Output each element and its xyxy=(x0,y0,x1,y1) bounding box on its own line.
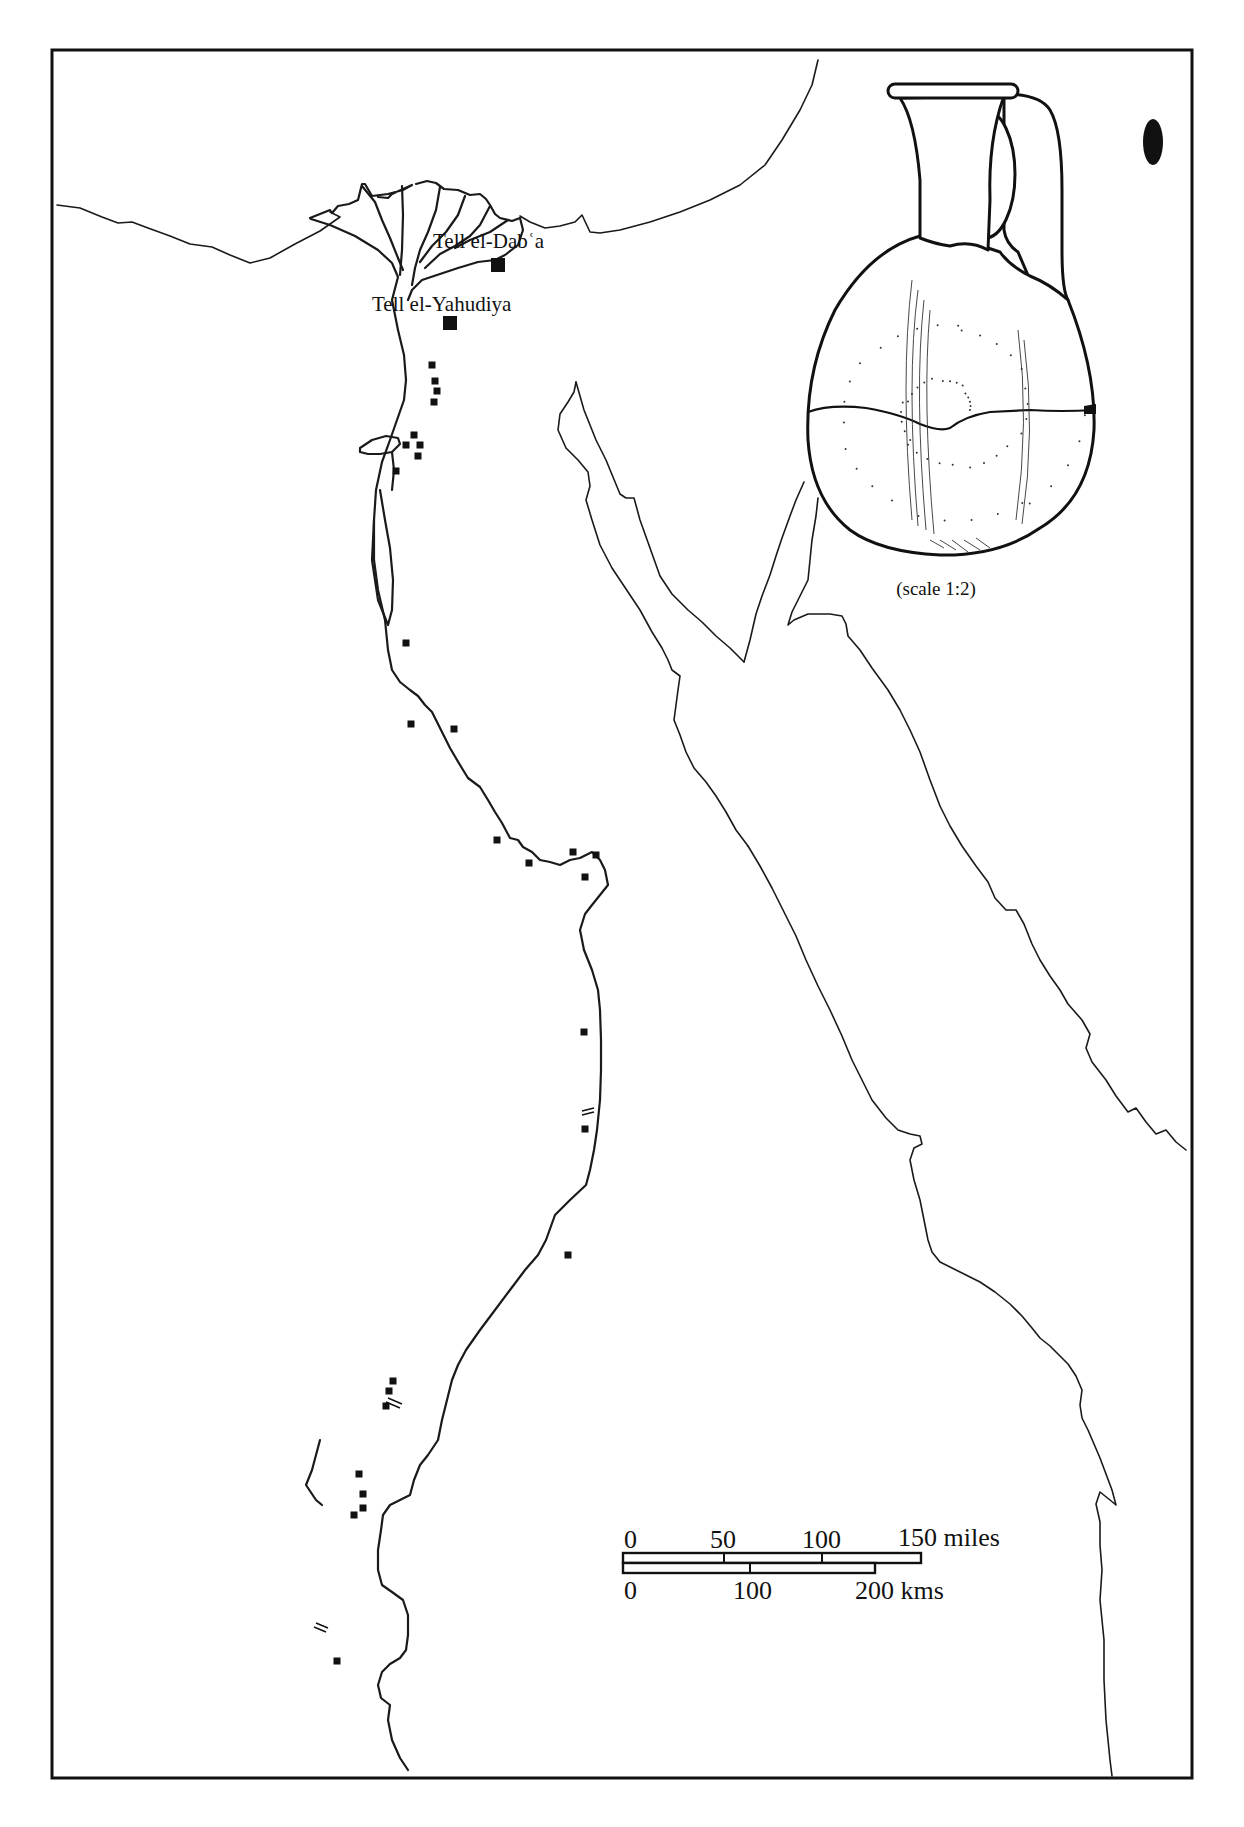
jug-rim xyxy=(888,84,1018,98)
site-marker[interactable] xyxy=(429,362,436,369)
jug-stipple-dot xyxy=(856,468,858,470)
site-marker[interactable] xyxy=(403,442,410,449)
jug-stipple-dot xyxy=(961,330,963,332)
jug-caption: (scale 1:2) xyxy=(896,578,976,600)
gulf-of-aqaba-west-coast xyxy=(744,482,804,662)
jug-stipple-dot xyxy=(1078,440,1080,442)
jug-stipple-dot xyxy=(962,385,964,387)
jug-stipple-dot xyxy=(843,422,845,424)
jug-stipple-dot xyxy=(859,362,861,364)
scale-label-kms-0: 0 xyxy=(624,1576,637,1605)
scale-bar: 0 50 100 150 miles 0 100 200 kms xyxy=(623,1523,1000,1605)
cataract-icon xyxy=(582,1108,594,1115)
delta-central-branch xyxy=(400,186,403,275)
scale-label-miles-end: 150 miles xyxy=(898,1523,1000,1552)
site-marker[interactable] xyxy=(582,874,589,881)
site-marker[interactable] xyxy=(494,837,501,844)
jug-stipple-dot xyxy=(909,439,911,441)
jug-stipple-dot xyxy=(952,464,954,466)
scale-label-kms-100: 100 xyxy=(733,1576,772,1605)
jug-stipple-dot xyxy=(1006,445,1008,447)
delta-west-inner-branch xyxy=(362,186,403,270)
delta-west-lobe xyxy=(310,184,412,218)
jug-stipple-dot xyxy=(969,467,971,469)
site-marker[interactable] xyxy=(334,1658,341,1665)
site-marker[interactable] xyxy=(417,442,424,449)
jug-stipple-dot xyxy=(1027,403,1029,405)
jug-stipple-dot xyxy=(904,430,906,432)
jug-stipple-dot xyxy=(1025,418,1027,420)
site-marker-tell-el-daba[interactable] xyxy=(491,258,505,272)
site-marker[interactable] xyxy=(390,1378,397,1385)
jug-stipple-dot xyxy=(1020,432,1022,434)
jug-stipple-dot xyxy=(964,392,966,394)
cataract-markers xyxy=(314,1108,594,1632)
jug-stipple-dot xyxy=(969,409,971,411)
site-marker[interactable] xyxy=(581,1029,588,1036)
cataract-icon xyxy=(314,1623,328,1632)
jug-stipple-dot xyxy=(923,381,925,383)
jug-illustration xyxy=(808,84,1096,555)
scale-label-kms-end: 200 kms xyxy=(855,1576,944,1605)
jug-stipple-dot xyxy=(900,411,902,413)
jug-stipple-dot xyxy=(944,520,946,522)
jug-stipple-dot xyxy=(1067,464,1069,466)
site-marker[interactable] xyxy=(451,726,458,733)
jug-stipple-dot xyxy=(942,380,944,382)
site-marker[interactable] xyxy=(360,1505,367,1512)
gulf-of-suez-west-coast xyxy=(558,382,748,846)
site-marker[interactable] xyxy=(431,399,438,406)
site-marker[interactable] xyxy=(356,1471,363,1478)
nile-river-nubia xyxy=(378,1530,408,1770)
jug-stipple-dot xyxy=(1024,388,1026,390)
site-marker[interactable] xyxy=(393,468,400,475)
scale-label-miles-100: 100 xyxy=(802,1525,841,1554)
site-marker[interactable] xyxy=(415,453,422,460)
label-tell-el-daba: Tell el-Dabʿa xyxy=(433,229,545,253)
jug-stipple-dot xyxy=(970,405,972,407)
jug-stipple-dot xyxy=(957,325,959,327)
jug-stipple-dot xyxy=(1010,354,1012,356)
map-figure: Tell el-Dabʿa Tell el-Yahudiya (scale 1:… xyxy=(0,0,1244,1827)
site-marker[interactable] xyxy=(351,1512,358,1519)
site-marker[interactable] xyxy=(593,852,600,859)
scale-bar-miles xyxy=(623,1553,921,1563)
site-marker[interactable] xyxy=(526,860,533,867)
jug-stipple-dot xyxy=(1050,485,1052,487)
jug-stipple-dot xyxy=(983,462,985,464)
jug-stipple-dot xyxy=(901,421,903,423)
jug-neck xyxy=(900,96,1004,250)
scale-label-miles-50: 50 xyxy=(710,1525,736,1554)
site-marker[interactable] xyxy=(403,640,410,647)
site-marker[interactable] xyxy=(408,721,415,728)
site-marker-tell-el-yahudiya[interactable] xyxy=(443,316,457,330)
jug-stipple-dot xyxy=(1021,368,1023,370)
nile-river-nubia-south xyxy=(306,1440,322,1505)
jug-stipple-dot xyxy=(967,396,969,398)
mediterranean-coast-east xyxy=(520,60,818,233)
jug-stipple-dot xyxy=(949,380,951,382)
jug-stipple-dot xyxy=(907,401,909,403)
jug-stipple-dot xyxy=(997,513,999,515)
site-marker[interactable] xyxy=(565,1252,572,1259)
label-tell-el-yahudiya: Tell el-Yahudiya xyxy=(372,292,512,316)
jug-stipple-dot xyxy=(1084,414,1086,416)
site-marker[interactable] xyxy=(570,849,577,856)
jug-stipple-dot xyxy=(931,378,933,380)
nile-river xyxy=(374,330,608,1530)
jug-stipple-dot xyxy=(1021,502,1023,504)
site-marker[interactable] xyxy=(360,1491,367,1498)
site-marker[interactable] xyxy=(582,1126,589,1133)
mediterranean-coast-west xyxy=(57,205,340,263)
jug-stipple-dot xyxy=(996,455,998,457)
jug-stipple-dot xyxy=(917,515,919,517)
jug-stipple-dot xyxy=(843,401,845,403)
site-marker[interactable] xyxy=(386,1388,393,1395)
jug-stipple-dot xyxy=(1029,503,1031,505)
jug-stipple-dot xyxy=(979,335,981,337)
jug-stipple-dot xyxy=(956,382,958,384)
site-marker[interactable] xyxy=(432,378,439,385)
site-marker[interactable] xyxy=(434,388,441,395)
site-marker[interactable] xyxy=(411,432,418,439)
site-marker[interactable] xyxy=(383,1403,390,1410)
